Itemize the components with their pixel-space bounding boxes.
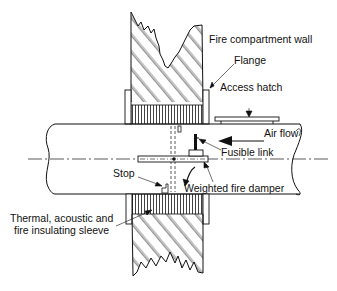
- label-insulating-sleeve: Thermal, acoustic and fire insulating sl…: [10, 212, 113, 236]
- bottom-stop: [162, 184, 168, 193]
- flange-lower-right: [203, 194, 209, 224]
- wall-upper: [131, 10, 203, 102]
- label-air-flow: Air flow: [264, 127, 298, 139]
- label-insulating-sleeve-line1: Thermal, acoustic and: [10, 212, 113, 224]
- flange-upper-left: [125, 90, 131, 124]
- damper-pivot: [172, 157, 176, 161]
- label-flange: Flange: [234, 54, 266, 66]
- label-stop: Stop: [113, 167, 135, 179]
- insulating-sleeve-lower: [132, 194, 203, 214]
- insulating-sleeve-upper: [131, 105, 203, 124]
- air-flow-arrow: [218, 136, 264, 146]
- label-access-hatch: Access hatch: [220, 81, 282, 93]
- label-fire-compartment-wall: Fire compartment wall: [209, 33, 312, 45]
- label-fusible-link: Fusible link: [221, 146, 274, 158]
- flange-upper-right: [203, 90, 209, 124]
- label-weighted-fire-damper: Weighted fire damper: [184, 182, 284, 194]
- wall-lower: [132, 214, 203, 279]
- label-insulating-sleeve-line2: fire insulating sleeve: [10, 224, 113, 236]
- access-hatch: [215, 117, 279, 124]
- fusible-link: [194, 134, 199, 150]
- top-stop: [178, 126, 181, 132]
- weighted-fire-damper: [138, 150, 208, 162]
